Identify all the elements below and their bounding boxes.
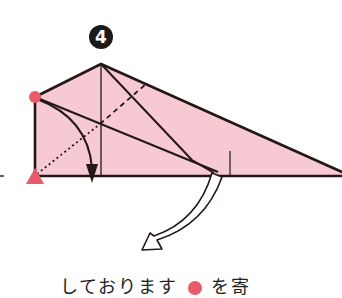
start-point-marker (29, 91, 41, 103)
caption-text-after: を寄 (211, 276, 251, 297)
instruction-caption: しております を寄 (60, 272, 342, 292)
caption-circle-marker-icon (188, 281, 202, 295)
turn-over-arrow (142, 173, 222, 250)
caption-text-before: しております (60, 276, 178, 297)
step-number-badge: 4 (89, 25, 113, 49)
